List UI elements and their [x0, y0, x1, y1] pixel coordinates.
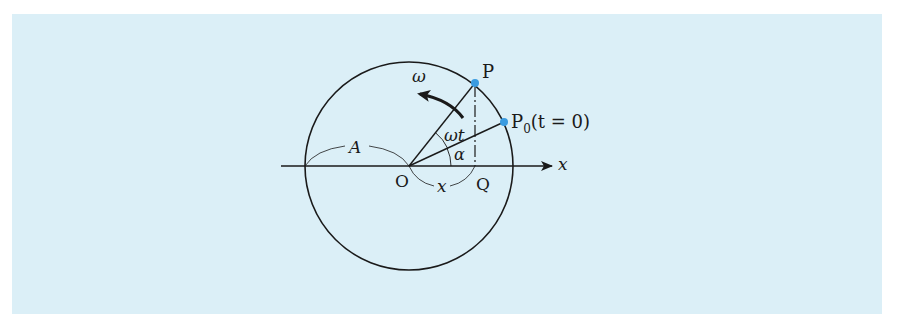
label-p: P: [482, 61, 494, 82]
label-omega-t: ωt: [444, 125, 465, 145]
angle-arc-alpha: [447, 148, 451, 166]
point-p: [471, 79, 479, 87]
brace-x-left: [409, 166, 434, 186]
label-alpha: α: [454, 145, 465, 164]
brace-a-left: [305, 146, 345, 166]
label-q: Q: [476, 174, 490, 194]
label-a: A: [347, 137, 361, 157]
label-x-segment: x: [437, 176, 447, 196]
circular-motion-diagram: ω P P0(t = 0) ωt α A O x Q x: [0, 0, 901, 330]
label-x-axis: x: [558, 154, 568, 174]
label-o: O: [395, 171, 409, 191]
radius-op: [409, 83, 475, 166]
brace-a-right: [369, 146, 409, 166]
point-p0: [500, 118, 508, 126]
label-p0: P0(t = 0): [511, 111, 590, 136]
brace-x-right: [450, 166, 475, 186]
label-omega: ω: [412, 66, 426, 86]
